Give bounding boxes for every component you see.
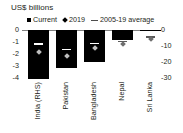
chart-legend: Current 2019 2005-19 average bbox=[27, 15, 154, 25]
category-label-pakistan: Pakistan bbox=[62, 82, 70, 110]
right-axis-tick: -30 bbox=[161, 74, 171, 82]
right-axis: 0 -10 -20 -30 bbox=[161, 0, 183, 133]
left-axis-tick: -2 bbox=[13, 50, 19, 58]
right-axis-tick: -20 bbox=[161, 58, 171, 66]
category-label-india: India (RHS) bbox=[34, 82, 42, 120]
average-marker-india bbox=[34, 43, 43, 44]
category-label-bangladesh: Bangladesh bbox=[90, 82, 98, 120]
legend-item-average: 2005-19 average bbox=[91, 16, 154, 24]
left-axis-tick: -1 bbox=[13, 38, 19, 46]
legend-item-label: 2019 bbox=[69, 16, 85, 24]
left-axis: 0 -1 -2 -3 -4 bbox=[0, 0, 19, 133]
legend-item-current: Current bbox=[27, 16, 57, 24]
plot-area bbox=[22, 30, 158, 78]
legend-item-2019: 2019 bbox=[63, 16, 85, 24]
diamond-marker-icon bbox=[62, 17, 68, 23]
legend-item-label: Current bbox=[33, 16, 57, 24]
category-label-sri-lanka: Sri Lanka bbox=[146, 82, 154, 112]
square-marker-icon bbox=[27, 18, 31, 22]
average-marker-pakistan bbox=[62, 49, 71, 50]
right-axis-tick: 0 bbox=[161, 26, 165, 34]
left-axis-tick: -3 bbox=[13, 62, 19, 70]
legend-item-label: 2005-19 average bbox=[100, 16, 154, 24]
bar-nepal bbox=[112, 30, 133, 40]
bar-sri-lanka bbox=[140, 30, 161, 31]
chart-container: US$ billions Current 2019 2005-19 averag… bbox=[0, 0, 183, 133]
right-axis-tick: -10 bbox=[161, 42, 171, 50]
left-axis-tick: -4 bbox=[13, 74, 19, 82]
dash-marker-icon bbox=[91, 20, 98, 21]
left-axis-tick: 0 bbox=[15, 26, 19, 34]
category-label-nepal: Nepal bbox=[118, 82, 126, 101]
